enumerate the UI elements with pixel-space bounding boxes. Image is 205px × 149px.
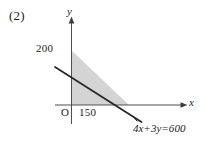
y-axis-label: y — [67, 6, 72, 17]
item-number-label: (2) — [9, 9, 25, 22]
origin-label: O — [61, 107, 69, 118]
y-axis-arrowhead — [69, 17, 75, 24]
equation-plus: + — [144, 122, 151, 134]
x-intercept-label: 150 — [79, 107, 96, 118]
equation-constant: 600 — [169, 122, 186, 134]
x-axis-arrowhead — [181, 102, 188, 107]
figure-container: (2) 200 O 150 y x 4x+3y=600 — [0, 0, 205, 149]
y-intercept-label: 200 — [36, 43, 53, 54]
shaded-region — [72, 51, 130, 106]
equation-var-x: x — [139, 122, 144, 134]
equation-var-y: y — [157, 122, 162, 134]
line-equation-label: 4x+3y=600 — [133, 123, 186, 134]
equation-equals: = — [162, 122, 169, 134]
x-axis-label: x — [189, 97, 194, 108]
